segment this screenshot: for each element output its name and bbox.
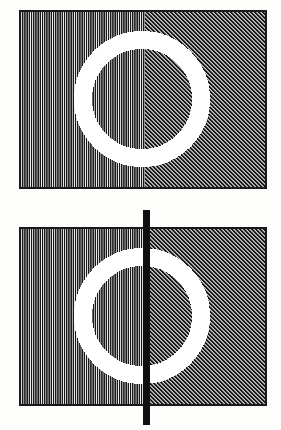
upper-stimulus-figure [0, 0, 281, 200]
panel-upper [0, 0, 281, 200]
panel-lower [0, 200, 281, 430]
lower-stimulus-figure [0, 200, 281, 430]
figure-root [0, 0, 281, 430]
vertical-black-bar [143, 210, 150, 425]
